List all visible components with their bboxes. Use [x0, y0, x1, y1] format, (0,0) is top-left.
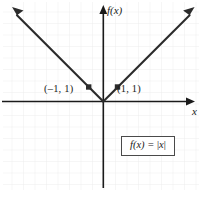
point-label-left: (–1, 1) [44, 84, 73, 95]
equation-box: f(x) = |x| [121, 136, 175, 156]
graph-canvas [0, 0, 205, 209]
x-axis-label: x [192, 106, 197, 117]
point-marker-left [86, 84, 91, 89]
absolute-bar-close: | [164, 139, 166, 150]
equation-function-part: f(x) = [130, 139, 157, 150]
absolute-value-function-figure: f(x) x (–1, 1) (1, 1) f(x) = |x| [0, 0, 205, 209]
point-label-right: (1, 1) [117, 84, 141, 95]
y-axis-label: f(x) [107, 5, 122, 16]
